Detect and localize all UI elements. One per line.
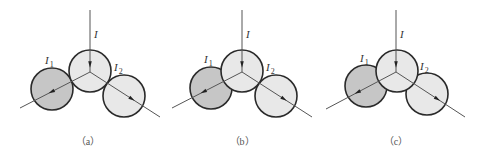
panel-b: II1I2（b） (172, 10, 312, 147)
panel-c: II1I2（c） (326, 10, 465, 147)
label-current-I1: I1 (44, 54, 54, 69)
panel-caption-a: （a） (76, 136, 100, 147)
panel-a: II1I2（a） (20, 10, 160, 147)
label-current-I2: I2 (265, 61, 275, 76)
panel-caption-c: （c） (384, 136, 408, 147)
current-split-diagram: II1I2（a）II1I2（b）II1I2（c） (0, 0, 479, 162)
label-current-I1: I1 (203, 53, 213, 68)
label-current-I2: I2 (113, 61, 123, 76)
label-current-I: I (399, 28, 405, 40)
panel-caption-b: （b） (230, 136, 255, 147)
label-current-I2: I2 (419, 60, 429, 75)
right-sphere (103, 75, 145, 117)
left-sphere (31, 68, 73, 110)
label-current-I: I (93, 28, 99, 40)
label-current-I1: I1 (359, 52, 369, 67)
right-sphere (255, 75, 297, 117)
center-sphere (376, 50, 418, 92)
label-current-I: I (245, 28, 251, 40)
